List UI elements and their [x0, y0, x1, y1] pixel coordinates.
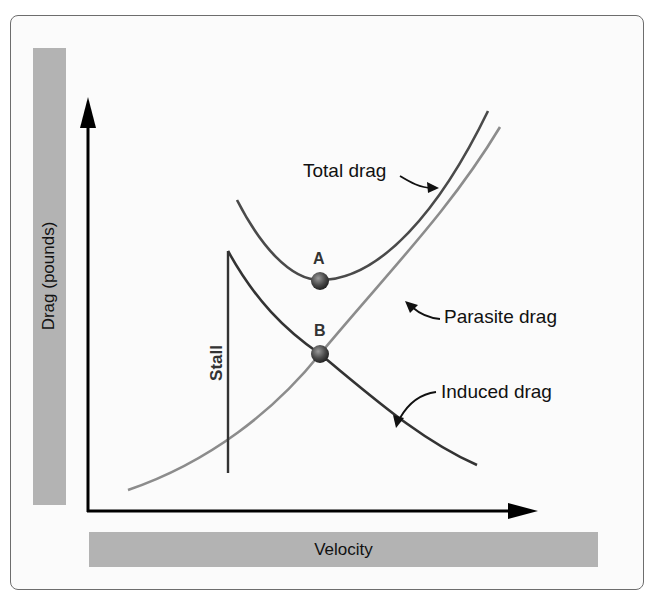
x-axis [87, 503, 538, 519]
induced-drag-curve [228, 251, 477, 465]
parasite-drag-label: Parasite drag [444, 306, 557, 328]
parasite-drag-pointer [405, 301, 440, 319]
point-b-label: B [314, 322, 326, 340]
y-axis-arrow-icon [80, 97, 96, 128]
point-b-marker [311, 345, 329, 363]
y-axis [80, 97, 96, 512]
total-drag-pointer [400, 176, 439, 193]
induced-drag-label: Induced drag [441, 381, 552, 403]
point-a-marker [311, 272, 329, 290]
total-drag-curve [237, 111, 488, 280]
total-drag-label: Total drag [303, 160, 386, 182]
induced-drag-pointer [393, 392, 436, 428]
stall-label: Stall [207, 345, 227, 381]
drag-chart [0, 0, 650, 606]
point-a-label: A [313, 250, 325, 268]
arrowhead-icon [427, 182, 439, 193]
x-axis-arrow-icon [508, 503, 538, 519]
